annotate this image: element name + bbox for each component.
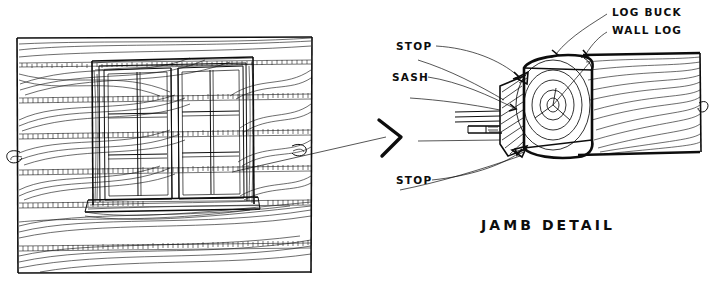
section-hatching	[501, 80, 523, 154]
elevation-group	[7, 37, 312, 273]
jamb-profile-section	[418, 72, 528, 157]
architectural-drawing-canvas: STOP SASH LOG BUCK WALL LOG STOP JAMB DE…	[0, 0, 710, 284]
window-sash-left	[104, 68, 172, 200]
wall-log-section	[578, 53, 708, 155]
leader-log-buck	[556, 14, 607, 54]
label-wall-log: WALL LOG	[612, 24, 682, 36]
log-buck-section	[516, 55, 593, 158]
chink-course	[19, 129, 311, 139]
leader-wall-log	[586, 32, 607, 54]
view-arrow	[232, 120, 401, 172]
drawing-plate: STOP SASH LOG BUCK WALL LOG STOP JAMB DE…	[0, 0, 710, 284]
label-stop-lower: STOP	[396, 174, 432, 186]
label-stop-upper: STOP	[396, 40, 432, 52]
jamb-detail-group	[400, 14, 708, 190]
label-log-buck: LOG BUCK	[612, 6, 682, 18]
wall-log-grain	[19, 38, 311, 272]
detail-title: JAMB DETAIL	[480, 217, 615, 233]
leader-stop-lower	[432, 153, 519, 180]
sash-section	[455, 111, 502, 133]
label-sash: SASH	[392, 71, 429, 83]
